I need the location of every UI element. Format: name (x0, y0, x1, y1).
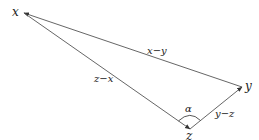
edge-x-minus-y (24, 13, 242, 87)
vertex-label-x: x (12, 5, 19, 19)
edge-label-y-minus-z: y−z (214, 108, 235, 119)
angle-alpha-arc (179, 115, 201, 121)
edge-z-minus-x (24, 13, 190, 129)
vertex-label-z: z (185, 129, 193, 140)
edge-label-x-minus-y: x−y (147, 45, 167, 56)
vector-triangle-diagram: x y z x−y y−z z−x α (0, 0, 259, 140)
angle-label-alpha: α (185, 103, 192, 114)
edge-label-z-minus-x: z−x (93, 73, 114, 84)
vertex-label-y: y (244, 79, 252, 93)
